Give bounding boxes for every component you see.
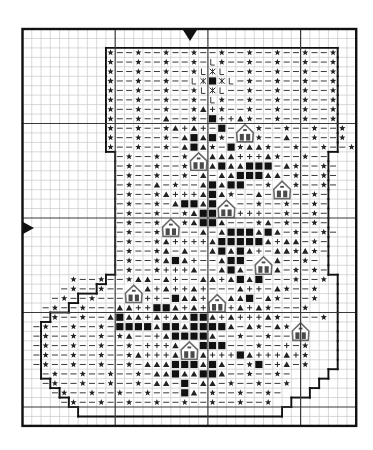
center-marker-left-icon <box>23 222 34 234</box>
cross-stitch-chart <box>0 0 373 450</box>
center-marker-top-icon <box>183 30 197 41</box>
